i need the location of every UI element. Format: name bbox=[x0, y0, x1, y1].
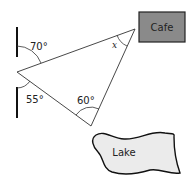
arc-55 bbox=[17, 81, 30, 88]
angle-70-label: 70° bbox=[30, 41, 48, 52]
arc-60 bbox=[76, 107, 99, 115]
angle-55-label: 55° bbox=[26, 94, 44, 105]
lake-label: Lake bbox=[112, 147, 135, 158]
bearings-diagram: 70° 55° 60° x Cafe Lake bbox=[0, 0, 196, 181]
lake-shape bbox=[93, 132, 180, 173]
cafe-label: Cafe bbox=[151, 22, 174, 33]
angle-60-label: 60° bbox=[77, 95, 95, 106]
angle-x-label: x bbox=[112, 40, 117, 50]
arc-x bbox=[117, 35, 127, 46]
